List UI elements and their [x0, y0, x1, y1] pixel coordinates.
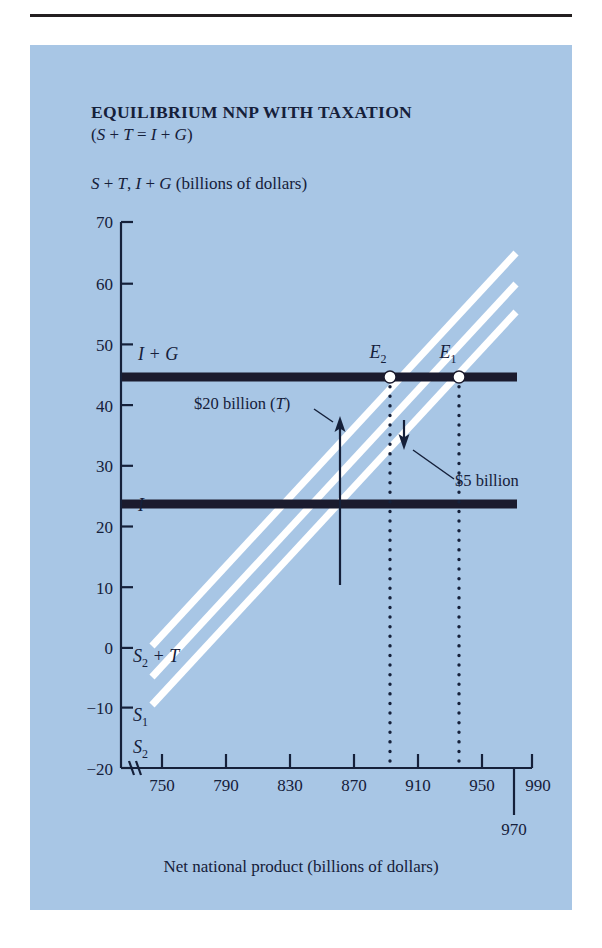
x-tick-750: 750	[149, 776, 175, 795]
y-tick-10: 10	[96, 579, 113, 598]
annotation-5-leader-line	[413, 450, 454, 479]
schedule-line-s2-plus-t	[152, 253, 516, 646]
equilibrium-point-e1[interactable]	[453, 371, 465, 383]
y-axis-title: S + T, I + G (billions of dollars)	[91, 174, 307, 193]
equilibrium-nnp-chart: EQUILIBRIUM NNP WITH TAXATION (S + T = I…	[30, 45, 572, 910]
y-axis-ticks	[121, 222, 133, 768]
x-tick-830: 830	[277, 776, 303, 795]
curve-label-i: I	[137, 495, 145, 515]
x-axis-tick-labels: 750 790 830 870 910 950 990	[149, 776, 551, 795]
y-tick-70: 70	[96, 213, 113, 232]
equilibrium-label-e2: E2	[369, 342, 387, 366]
chart-title: EQUILIBRIUM NNP WITH TAXATION	[91, 102, 412, 122]
y-tick-40: 40	[96, 397, 113, 416]
x-tick-970-label: 970	[501, 820, 527, 839]
y-tick-neg10: −10	[86, 699, 113, 718]
figure-panel: EQUILIBRIUM NNP WITH TAXATION (S + T = I…	[30, 45, 572, 910]
x-tick-990: 990	[525, 776, 551, 795]
x-tick-790: 790	[213, 776, 239, 795]
x-axis-title: Net national product (billions of dollar…	[163, 857, 438, 876]
annotation-5-billion: $5 billion	[455, 471, 519, 490]
chart-subtitle: (S + T = I + G)	[91, 125, 193, 144]
annotation-20-leader-line	[314, 409, 333, 422]
y-tick-neg20: −20	[86, 760, 113, 779]
y-tick-60: 60	[96, 275, 113, 294]
y-tick-0: 0	[105, 639, 114, 658]
y-tick-20: 20	[96, 518, 113, 537]
x-tick-910: 910	[405, 776, 431, 795]
curve-label-s1: S1	[133, 705, 148, 729]
curve-label-i-plus-g: I + G	[137, 344, 178, 364]
equilibrium-point-e2[interactable]	[384, 371, 396, 383]
x-axis-ticks	[162, 754, 532, 768]
x-tick-950: 950	[469, 776, 495, 795]
annotation-20-billion-tax: $20 billion (T)	[194, 394, 290, 413]
y-tick-30: 30	[96, 457, 113, 476]
y-tick-50: 50	[96, 336, 113, 355]
curve-label-s2: S2	[133, 737, 148, 761]
x-tick-870: 870	[341, 776, 367, 795]
y-axis-tick-labels: 70 60 50 40 30 20 10 0 −10 −20	[86, 213, 113, 779]
top-divider-rule	[30, 14, 572, 17]
